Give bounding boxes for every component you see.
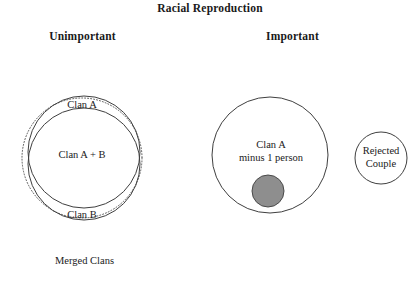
label-clan-a: Clan A bbox=[32, 98, 132, 111]
label-clan-a-minus-line1: Clan A bbox=[215, 138, 327, 151]
label-rejected-couple: Rejected Couple bbox=[352, 144, 410, 170]
label-rejected-couple-line1: Rejected bbox=[352, 144, 410, 157]
label-clan-b: Clan B bbox=[32, 208, 132, 221]
label-clan-a-minus-one: Clan A minus 1 person bbox=[215, 138, 327, 164]
page-title: Racial Reproduction bbox=[0, 2, 420, 14]
label-clan-a-minus-line2: minus 1 person bbox=[215, 151, 327, 164]
column-header-unimportant: Unimportant bbox=[20, 30, 145, 42]
excluded-person-dot-icon bbox=[252, 175, 284, 207]
label-rejected-couple-line2: Couple bbox=[352, 157, 410, 170]
diagram-canvas: Racial Reproduction Unimportant Importan… bbox=[0, 0, 420, 289]
label-clan-a-plus-b: Clan A + B bbox=[27, 148, 137, 161]
clan-b-circle bbox=[28, 108, 140, 220]
label-merged-clans: Merged Clans bbox=[22, 254, 147, 267]
column-header-important: Important bbox=[230, 30, 355, 42]
